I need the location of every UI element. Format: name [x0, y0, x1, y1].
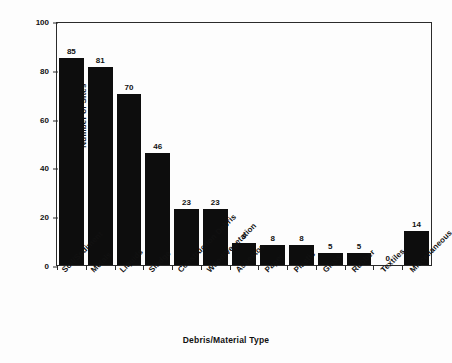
- bar-value-label: 85: [67, 48, 76, 56]
- bar-value-label: 8: [299, 235, 303, 243]
- y-axis-tick-label: 0: [23, 263, 49, 271]
- bar-slot: 0: [373, 23, 402, 265]
- bar-slot: 70: [115, 23, 144, 265]
- bar-slot: 8: [287, 23, 316, 265]
- y-axis-tick-label: 60: [23, 117, 49, 125]
- bar-value-label: 23: [182, 199, 191, 207]
- x-axis-title: Debris/Material Type: [0, 335, 452, 345]
- bar-value-label: 8: [271, 235, 275, 243]
- bar-slot: 46: [143, 23, 172, 265]
- bar-slot: 85: [57, 23, 86, 265]
- bar-slot: 5: [316, 23, 345, 265]
- y-axis-tick-label: 80: [23, 68, 49, 76]
- bar-slot: 8: [258, 23, 287, 265]
- y-axis-tick-label: 40: [23, 165, 49, 173]
- bar-value-label: 23: [211, 199, 220, 207]
- bar-slot: 23: [172, 23, 201, 265]
- bar-slot: 81: [86, 23, 115, 265]
- bar-chart-figure: Number of Sites 020406080100 85817046232…: [0, 0, 452, 363]
- bar-value-label: 46: [153, 143, 162, 151]
- bar: [117, 94, 142, 265]
- bar-slot: 14: [402, 23, 431, 265]
- bar-value-label: 5: [357, 243, 361, 251]
- bar-slot: 5: [345, 23, 374, 265]
- y-axis-tick-label: 20: [23, 214, 49, 222]
- bar: [59, 58, 84, 265]
- bar-value-label: 70: [124, 84, 133, 92]
- bar-value-label: 81: [96, 57, 105, 65]
- bar-value-label: 14: [412, 221, 421, 229]
- y-axis-tick-label: 100: [23, 19, 49, 27]
- x-axis-labels: Soil/SedimentMetalsLiquidsSludgeConstruc…: [56, 268, 432, 338]
- bar-value-label: 5: [328, 243, 332, 251]
